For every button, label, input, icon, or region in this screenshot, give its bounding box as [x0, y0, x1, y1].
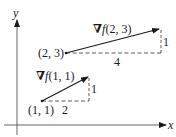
nabla-symbol: ∇	[36, 69, 45, 83]
vertical-component-label: 1	[163, 35, 169, 49]
x-axis-label: x	[167, 118, 174, 132]
vertical-component-label: 1	[91, 82, 97, 96]
gradient-diagram: x y ∇f(1, 1) (1, 1) 2 1 ∇f(2, 3) (2, 3) …	[0, 0, 176, 137]
nabla-symbol: ∇	[93, 22, 102, 36]
horizontal-component-label: 2	[62, 103, 68, 117]
gradient-args: (1, 1)	[48, 69, 74, 83]
gradient-label: ∇f(1, 1)	[36, 69, 74, 83]
y-axis-label: y	[12, 6, 19, 20]
gradient-label: ∇f(2, 3)	[93, 22, 131, 36]
gradient-vector-2-3: ∇f(2, 3) (2, 3) 4 1	[38, 22, 169, 69]
gradient-args: (2, 3)	[105, 22, 131, 36]
base-point-dot	[65, 52, 68, 55]
base-point-label: (1, 1)	[28, 103, 54, 117]
horizontal-component-label: 4	[114, 55, 120, 69]
base-point-label: (2, 3)	[38, 46, 64, 60]
gradient-vector-1-1: ∇f(1, 1) (1, 1) 2 1	[28, 69, 97, 117]
base-point-dot	[41, 100, 44, 103]
